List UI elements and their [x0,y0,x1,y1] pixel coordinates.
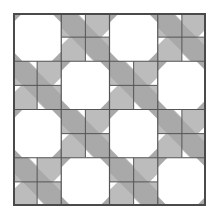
octagon-shape [61,158,109,206]
octagon-shape [158,158,206,206]
octagon-shape [110,110,158,158]
quilt-grid [13,13,206,206]
octagon-shape [13,13,61,61]
quilt-pattern [13,13,206,206]
octagon-shape [158,61,206,109]
octagon-shape [13,110,61,158]
octagon-shape [110,13,158,61]
octagon-shape [61,61,109,109]
